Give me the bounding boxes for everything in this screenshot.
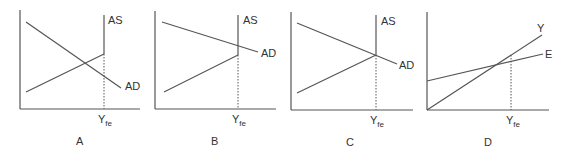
yfe-label: Yfe (98, 113, 113, 128)
as-curve-sloped (164, 55, 238, 92)
panel-letter: B (211, 135, 218, 147)
ad-label: AD (125, 80, 140, 92)
as-curve-sloped (26, 54, 104, 92)
as-label: AS (108, 14, 123, 26)
as-label: AS (243, 14, 258, 26)
y-label: Y (537, 22, 545, 34)
ad-label: AD (261, 47, 276, 59)
ad-curve (26, 22, 121, 88)
ad-curve (162, 22, 258, 52)
yfe-sub: fe (105, 119, 112, 128)
yfe-sub: fe (239, 119, 246, 128)
panel-letter: C (346, 136, 354, 148)
yfe-label: Yfe (506, 114, 521, 129)
yfe-sub: fe (513, 120, 520, 129)
panel-letter: A (76, 135, 84, 147)
e-line (427, 54, 543, 81)
panel-b: AS AD Yfe B (155, 11, 276, 147)
yfe-label: Yfe (370, 114, 385, 129)
panel-letter: D (484, 136, 492, 148)
yfe-label: Yfe (232, 113, 247, 128)
figure: AS AD Yfe A AS AD Yfe B AS AD Yfe C Y (0, 0, 565, 154)
ad-curve (297, 23, 397, 64)
y-line (427, 35, 542, 110)
e-label: E (545, 48, 552, 60)
panel-a: AS AD Yfe A (20, 10, 140, 147)
panel-c: AS AD Yfe C (291, 12, 414, 148)
as-curve-sloped (297, 55, 376, 93)
as-label: AS (381, 15, 396, 27)
panel-d: Y E Yfe D (427, 12, 552, 148)
ad-label: AD (399, 59, 414, 71)
yfe-sub: fe (377, 120, 384, 129)
